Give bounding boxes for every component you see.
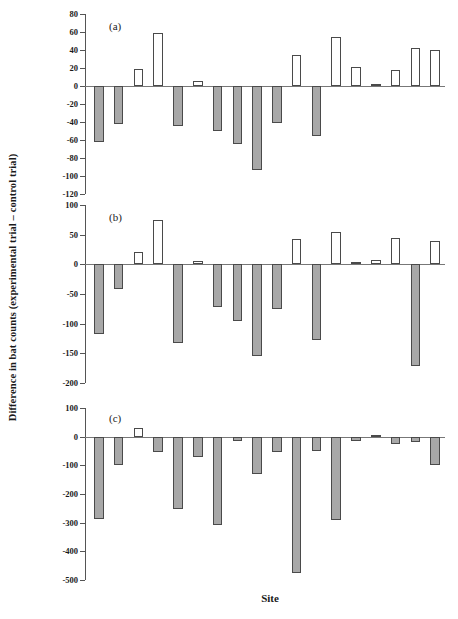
bar [312,264,321,340]
y-axis-tick-label: -100 [62,460,78,470]
bar [213,86,222,131]
bar [193,437,202,457]
bar [114,437,123,466]
y-axis-tick-label: 20 [70,63,79,73]
y-axis-line [85,408,86,580]
y-axis-tick-label: -500 [62,575,78,585]
y-axis-tick-label: 100 [65,200,78,210]
y-axis-tick-label: -200 [62,378,78,388]
bar [252,437,261,474]
bar [173,264,182,342]
bar [233,264,242,320]
y-axis-tick [80,294,85,295]
zero-baseline [85,86,445,87]
bar [94,264,103,334]
y-axis-tick-label: 100 [65,403,78,413]
panel-c-plot-area: 1000-100-200-300-400-500 [85,408,445,580]
y-axis-tick-label: 60 [70,27,79,37]
y-axis-tick [80,205,85,206]
bar [292,239,301,264]
y-axis-tick [80,324,85,325]
bar [173,437,182,509]
y-axis-tick-label: 0 [74,259,78,269]
bar [312,437,321,451]
y-axis-tick-label: -50 [67,289,78,299]
y-axis-tick-label: 40 [70,45,79,55]
bar [430,437,439,466]
y-axis-tick [80,235,85,236]
bar [292,437,301,573]
y-axis-tick-label: -150 [62,348,78,358]
y-axis-tick [80,408,85,409]
y-axis-tick [80,158,85,159]
bar [252,264,261,356]
panel-c: (c) 1000-100-200-300-400-500 [85,408,445,580]
bat-count-difference-figure: Difference in bat counts (experimental t… [0,0,458,619]
y-axis-tick-label: 0 [74,432,78,442]
bar [213,264,222,307]
y-axis-line [85,14,86,194]
bar [331,437,340,521]
y-axis-tick [80,50,85,51]
y-axis-tick [80,383,85,384]
y-axis-tick-label: 80 [70,9,79,19]
bar [411,437,420,443]
bar [134,252,143,264]
bar [430,50,439,86]
bar [233,437,242,441]
y-axis-tick [80,194,85,195]
bar [233,86,242,144]
bar [371,260,380,265]
bar [153,33,162,86]
bar [312,86,321,136]
panel-a-plot-area: 806040200-20-40-60-80-100-120 [85,14,445,194]
y-axis-tick-label: 50 [70,230,79,240]
panel-b: (b) 100500-50-100-150-200 [85,205,445,383]
y-axis-line [85,205,86,383]
y-axis-tick [80,465,85,466]
bar [153,220,162,265]
bar [331,232,340,265]
y-axis-tick [80,551,85,552]
bar [272,437,281,453]
y-axis-tick-label: -60 [67,135,78,145]
bar [292,55,301,87]
bar [272,264,281,309]
bar [411,264,420,366]
y-axis-tick [80,580,85,581]
y-axis-tick-label: -400 [62,546,78,556]
bar [391,437,400,444]
y-axis-tick-label: -120 [62,189,78,199]
bar [193,81,202,86]
bar [134,428,143,437]
bar [371,84,380,86]
bar [391,238,400,265]
bar [272,86,281,123]
bar [153,437,162,453]
bar [213,437,222,525]
bar [351,262,360,264]
bar [252,86,261,170]
y-axis-title: Difference in bat counts (experimental t… [8,154,19,422]
panel-b-plot-area: 100500-50-100-150-200 [85,205,445,383]
y-axis-tick-label: 0 [74,81,78,91]
zero-baseline [85,264,445,265]
bar [94,86,103,142]
y-axis-tick-label: -40 [67,117,78,127]
y-axis-tick [80,32,85,33]
y-axis-tick-label: -300 [62,518,78,528]
bar [193,261,202,264]
y-axis-tick [80,494,85,495]
panel-a: (a) 806040200-20-40-60-80-100-120 [85,14,445,194]
bar [351,67,360,86]
y-axis-tick-label: -100 [62,171,78,181]
bar [114,264,123,289]
bar [173,86,182,126]
bar [114,86,123,124]
y-axis-title-container: Difference in bat counts (experimental t… [0,0,26,575]
bar [94,437,103,519]
bar [430,241,439,265]
bar [351,437,360,441]
y-axis-tick [80,68,85,69]
y-axis-tick-label: -200 [62,489,78,499]
